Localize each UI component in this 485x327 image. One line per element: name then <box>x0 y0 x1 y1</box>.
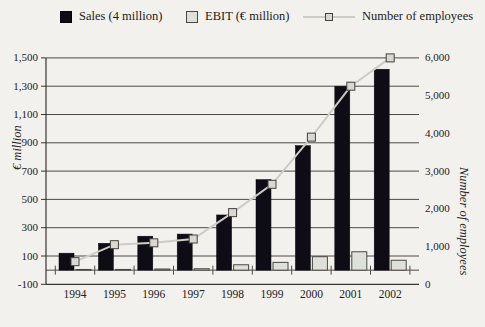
ebit-bar <box>273 262 288 270</box>
sales-bar <box>374 69 389 270</box>
right-tick-label: 0 <box>425 278 431 290</box>
ebit-bar <box>115 269 130 270</box>
year-label: 2001 <box>339 288 362 300</box>
right-tick-label: 4,000 <box>425 127 450 139</box>
left-tick-label: 900 <box>22 136 39 148</box>
employees-marker <box>386 54 394 62</box>
right-tick-label: 2,000 <box>425 202 450 214</box>
sales-ebit-employees-chart: Sales (4 million) EBIT (€ million) Numbe… <box>0 0 485 327</box>
ebit-bar <box>234 265 249 270</box>
year-label: 1998 <box>221 288 244 300</box>
employees-marker <box>347 82 355 90</box>
sales-bar <box>217 215 232 270</box>
employees-marker <box>229 209 237 217</box>
left-tick-label: 100 <box>22 250 39 262</box>
ebit-bar <box>312 257 327 270</box>
year-label: 1997 <box>182 288 205 300</box>
employees-marker <box>150 239 158 247</box>
ebit-bar <box>391 260 406 270</box>
year-label: 2000 <box>300 288 323 300</box>
right-tick-label: 5,000 <box>425 89 450 101</box>
ebit-bar <box>76 269 91 270</box>
right-tick-label: 3,000 <box>425 165 450 177</box>
employees-marker <box>71 258 79 266</box>
employees-marker <box>110 241 118 249</box>
left-tick-label: 1,300 <box>13 80 38 92</box>
right-tick-label: 1,000 <box>425 240 450 252</box>
sales-bar <box>335 86 350 270</box>
employees-marker <box>189 235 197 243</box>
left-tick-label: 1,100 <box>13 108 38 120</box>
sales-bar <box>295 146 310 271</box>
ebit-bar <box>194 269 209 270</box>
left-tick-label: -100 <box>18 278 39 290</box>
chart-canvas: 1,5001,3001,100900700500300100-1006,0005… <box>0 0 485 327</box>
ebit-bar <box>352 252 367 270</box>
left-tick-label: 500 <box>22 193 39 205</box>
left-tick-label: 1,500 <box>13 51 38 63</box>
year-label: 1995 <box>103 288 126 300</box>
year-label: 1999 <box>261 288 284 300</box>
year-label: 2002 <box>379 288 402 300</box>
ebit-bar <box>155 269 170 270</box>
employees-marker <box>307 133 315 141</box>
right-tick-label: 6,000 <box>425 51 450 63</box>
employees-marker <box>268 180 276 188</box>
left-tick-label: 700 <box>22 165 39 177</box>
year-label: 1994 <box>64 288 87 300</box>
left-tick-label: 300 <box>22 221 39 233</box>
year-label: 1996 <box>142 288 165 300</box>
